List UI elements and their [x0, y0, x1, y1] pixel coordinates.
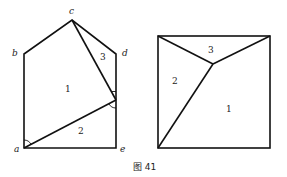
vertex-label-b: b: [12, 48, 18, 58]
angle-marks: [24, 92, 116, 145]
cut-line-top-right: [213, 36, 270, 64]
vertex-label-a: a: [14, 144, 19, 154]
angle-mark-a: [24, 140, 31, 144]
angle-mark-lower: [109, 104, 116, 108]
left-region-label-2: 2: [78, 126, 84, 136]
right-square: [158, 36, 270, 148]
cut-line-top-left: [158, 36, 213, 64]
vertex-label-d: d: [122, 48, 128, 58]
cut-line-a: [24, 100, 116, 148]
figure-caption: 图 41: [133, 162, 156, 172]
square-outline: [158, 36, 270, 148]
right-region-label-1: 1: [226, 104, 232, 114]
left-region-label-1: 1: [65, 84, 71, 94]
vertex-label-c: c: [69, 6, 74, 16]
right-region-label-3: 3: [208, 45, 214, 55]
figure-41: c b d a e 1 3 2 3 2 1 图 41: [0, 0, 287, 177]
cut-line-diagonal: [158, 64, 213, 148]
left-region-label-3: 3: [100, 52, 106, 62]
right-region-label-2: 2: [172, 76, 178, 86]
cut-line-c: [72, 20, 116, 100]
vertex-label-e: e: [120, 144, 125, 154]
